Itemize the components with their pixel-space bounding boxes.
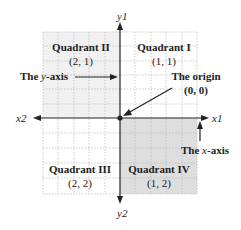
y-axis-bottom-arrow-icon [117,196,123,204]
x-axis-right-arrow-icon [201,115,209,121]
quadrant-iii-title: Quadrant III [49,163,111,175]
origin-annotation-coords: (0, 0) [184,84,208,97]
y-axis-top-arrow-icon [117,22,123,30]
quadrant-ii-coords: (2, 1) [69,55,93,68]
quadrant-i-coords: (1, 1) [152,55,176,68]
x-axis-pointer-arrow-icon [197,121,203,129]
y-axis-annotation: The y-axis [20,70,69,82]
quadrant-ii-title: Quadrant II [52,41,110,53]
x2-label: x2 [15,112,27,124]
origin-point [117,115,122,120]
origin-pointer-arrow-icon [123,109,132,116]
origin-pointer-line [128,88,172,113]
y1-label: y1 [116,10,127,22]
quadrant-iv-title: Quadrant IV [128,163,189,175]
x-axis-left-arrow-icon [33,115,41,121]
coordinate-diagram: y1 y2 x2 x1 Quadrant II (2, 1) Quadrant … [0,0,241,230]
x-axis-annotation: The x-axis [181,144,230,156]
quadrant-iv-coords: (1, 2) [147,177,171,190]
quadrant-i-title: Quadrant I [137,41,191,53]
origin-annotation-label: The origin [171,70,220,82]
y2-label: y2 [116,207,128,219]
x1-label: x1 [211,112,222,124]
quadrant-iii-coords: (2, 2) [68,177,92,190]
